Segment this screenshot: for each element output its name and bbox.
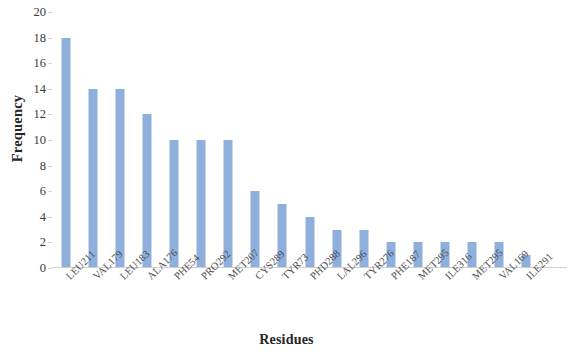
x-label-slot: LEU183 xyxy=(106,272,133,330)
bar[interactable] xyxy=(197,140,206,268)
y-axis-tick-label: 4 xyxy=(40,209,46,224)
bar-slot xyxy=(188,12,215,268)
x-label-slot: ILE291 xyxy=(513,272,540,330)
y-axis-tick-label: 14 xyxy=(34,81,47,96)
y-axis-tick-label: 12 xyxy=(34,107,47,122)
bar-slot xyxy=(106,12,133,268)
plot-area: 02468101214161820 xyxy=(52,12,567,268)
bar-slot xyxy=(52,12,79,268)
x-label-slot: ILE316 xyxy=(431,272,458,330)
bar-slot xyxy=(431,12,458,268)
bar-slot xyxy=(296,12,323,268)
x-axis-title: Residues xyxy=(0,332,573,348)
bar-slot xyxy=(242,12,269,268)
bar-slot xyxy=(269,12,296,268)
y-axis-title: Frequency xyxy=(9,69,26,189)
y-axis-tick-label: 0 xyxy=(40,261,46,276)
bar-slot xyxy=(79,12,106,268)
x-label-slot: ALA176 xyxy=(133,272,160,330)
bar[interactable] xyxy=(115,89,124,268)
y-axis-tick-label: 2 xyxy=(40,235,46,250)
bar-slot xyxy=(459,12,486,268)
bar-slot xyxy=(350,12,377,268)
x-label-slot: MET295 xyxy=(459,272,486,330)
x-label-slot: MET295 xyxy=(404,272,431,330)
bar-slot xyxy=(377,12,404,268)
bar-slot xyxy=(404,12,431,268)
y-axis-tick-label: 6 xyxy=(40,184,46,199)
x-label-slot: TYR276 xyxy=(350,272,377,330)
bar-slot xyxy=(323,12,350,268)
bar[interactable] xyxy=(61,38,70,268)
y-axis-tick-label: 8 xyxy=(40,158,46,173)
y-axis-tick-mark xyxy=(48,268,52,269)
bar-slot xyxy=(133,12,160,268)
y-axis-tick-label: 16 xyxy=(34,56,47,71)
y-axis-tick-label: 10 xyxy=(34,133,47,148)
bars-layer xyxy=(52,12,567,268)
x-axis-tick-labels: LEU211VAL179LEU183ALA176PHE54PRO292MET20… xyxy=(52,272,567,330)
bar[interactable] xyxy=(88,89,97,268)
y-axis-tick-label: 18 xyxy=(34,30,47,45)
x-label-slot: LAL296 xyxy=(323,272,350,330)
x-label-slot: PHE187 xyxy=(377,272,404,330)
x-label-slot: CYS289 xyxy=(242,272,269,330)
x-label-slot: MET207 xyxy=(215,272,242,330)
y-axis-tick-label: 20 xyxy=(34,5,47,20)
bar[interactable] xyxy=(142,114,151,268)
x-label-slot: TYR73 xyxy=(269,272,296,330)
frequency-by-residue-bar-chart: Frequency 02468101214161820 LEU211VAL179… xyxy=(0,0,573,355)
bar-slot xyxy=(215,12,242,268)
bar-slot xyxy=(513,12,540,268)
x-label-slot: PHD288 xyxy=(296,272,323,330)
x-label-slot: PHE54 xyxy=(160,272,187,330)
bar-slot xyxy=(486,12,513,268)
x-label-slot: VAL179 xyxy=(79,272,106,330)
x-label-slot: LEU211 xyxy=(52,272,79,330)
x-label-slot: VAL169 xyxy=(486,272,513,330)
bar-slot xyxy=(160,12,187,268)
x-label-slot: PRO292 xyxy=(188,272,215,330)
